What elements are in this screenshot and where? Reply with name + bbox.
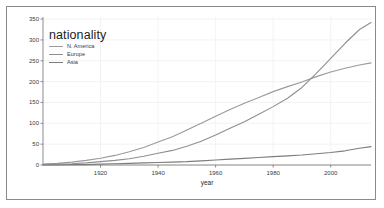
y-tick-label: 0 <box>15 162 39 168</box>
legend-entry-list: N. AmericaEuropeAsia <box>49 43 106 67</box>
x-tick-label: 1960 <box>201 170 231 176</box>
x-axis-title: year <box>43 179 371 186</box>
y-tick-label: 100 <box>15 120 39 126</box>
legend-entry[interactable]: Europe <box>49 51 106 59</box>
legend-line-swatch-icon <box>49 54 63 55</box>
x-tick-label: 2000 <box>316 170 346 176</box>
y-tick-label: 150 <box>15 99 39 105</box>
y-tick-label: 300 <box>15 37 39 43</box>
legend-line-swatch-icon <box>49 46 63 47</box>
chart-legend: nationality N. AmericaEuropeAsia <box>49 29 106 66</box>
y-tick-label: 200 <box>15 79 39 85</box>
series-line-0 <box>43 63 371 164</box>
legend-entry[interactable]: N. America <box>49 43 106 51</box>
x-tick-label: 1980 <box>258 170 288 176</box>
y-tick-label: 50 <box>15 141 39 147</box>
legend-title: nationality <box>49 29 106 42</box>
legend-entry-label: Asia <box>67 60 78 66</box>
legend-entry-label: N. America <box>67 44 94 50</box>
legend-entry[interactable]: Asia <box>49 59 106 67</box>
chart-figure-frame: 0501001502002503003501920194019601980200… <box>6 6 376 200</box>
x-tick-label: 1940 <box>143 170 173 176</box>
legend-entry-label: Europe <box>67 52 85 58</box>
legend-line-swatch-icon <box>49 62 63 63</box>
y-tick-label: 350 <box>15 16 39 22</box>
x-tick-label: 1920 <box>86 170 116 176</box>
y-tick-label: 250 <box>15 58 39 64</box>
